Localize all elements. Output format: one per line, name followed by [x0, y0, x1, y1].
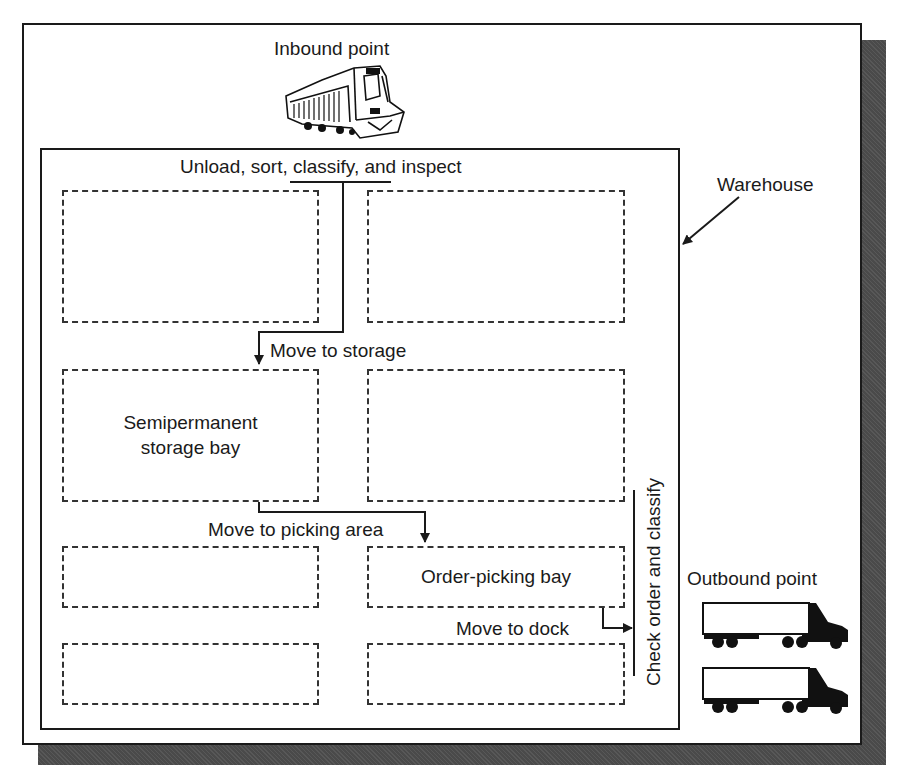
outbound-point-label: Outbound point	[687, 568, 817, 590]
flow-arrows	[0, 0, 898, 780]
semi-truck-icon	[702, 665, 852, 715]
semi-truck-icon	[702, 600, 852, 650]
